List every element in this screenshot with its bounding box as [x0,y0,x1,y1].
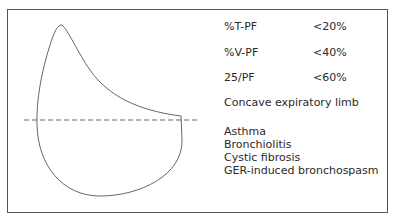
flow-volume-loop [0,0,396,223]
loop-curve [37,25,182,196]
criterion-value: <60% [313,71,347,84]
condition-item: GER-induced bronchospasm [224,164,379,177]
condition-item: Bronchiolitis [224,138,379,151]
criterion-param: 25/PF [224,71,255,84]
condition-item: Asthma [224,125,379,138]
condition-item: Cystic fibrosis [224,151,379,164]
criterion-value: <40% [313,46,347,59]
criterion-param: %V-PF [224,46,258,59]
criterion-value: <20% [313,20,347,33]
shape-note: Concave expiratory limb [224,96,359,109]
criterion-param: %T-PF [224,20,257,33]
conditions-list: Asthma Bronchiolitis Cystic fibrosis GER… [224,125,379,177]
